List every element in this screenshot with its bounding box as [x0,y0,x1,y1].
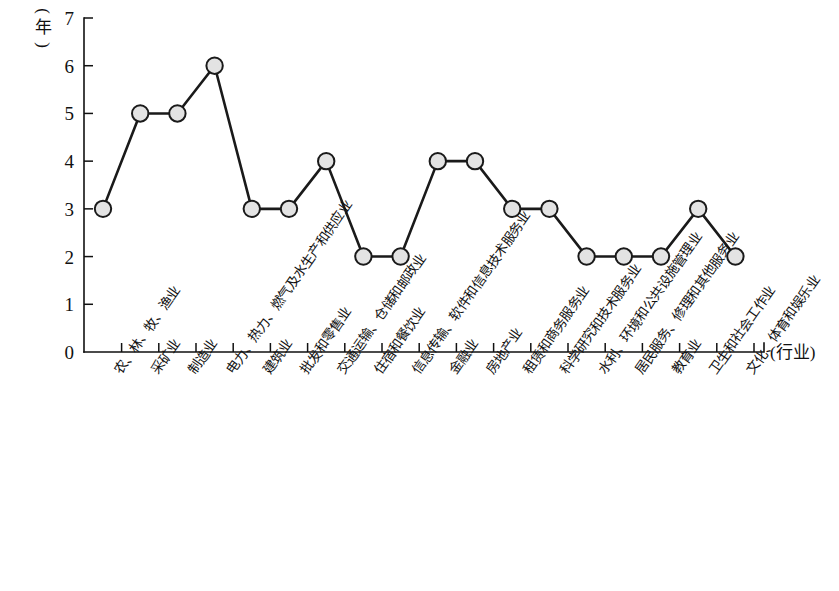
data-point-markers [95,58,744,265]
chart-canvas: 01234567 (行业) [0,0,839,591]
data-point-marker [578,248,594,264]
data-point-marker [690,201,706,217]
y-axis-tick-label: 2 [65,247,75,268]
data-point-marker [244,201,260,217]
y-axis-tick-label: 1 [65,294,75,315]
data-point-marker [206,58,222,74]
data-point-marker [318,153,334,169]
y-axis-tick-label: 3 [65,199,75,220]
line-chart: ( 年 ) 01234567 (行业) 农、林、牧、渔业采矿业制造业电力、热力、… [0,0,839,591]
data-point-marker [95,201,111,217]
y-axis-ticks: 01234567 [65,8,94,363]
y-axis-unit-close-paren: ) [36,28,50,62]
y-axis-unit-label: ( 年 ) [26,4,60,52]
data-series-line [103,66,735,257]
data-point-marker [169,105,185,121]
data-point-marker [281,201,297,217]
y-axis-tick-label: 0 [65,342,75,363]
y-axis-tick-label: 5 [65,103,75,124]
y-axis-tick-label: 7 [65,8,75,29]
y-axis-tick-label: 6 [65,56,75,77]
data-point-marker [541,201,557,217]
data-point-marker [132,105,148,121]
data-point-marker [467,153,483,169]
y-axis-unit-open-paren: ( [36,0,50,28]
data-point-marker [430,153,446,169]
y-axis-tick-label: 4 [65,151,75,172]
data-point-marker [355,248,371,264]
